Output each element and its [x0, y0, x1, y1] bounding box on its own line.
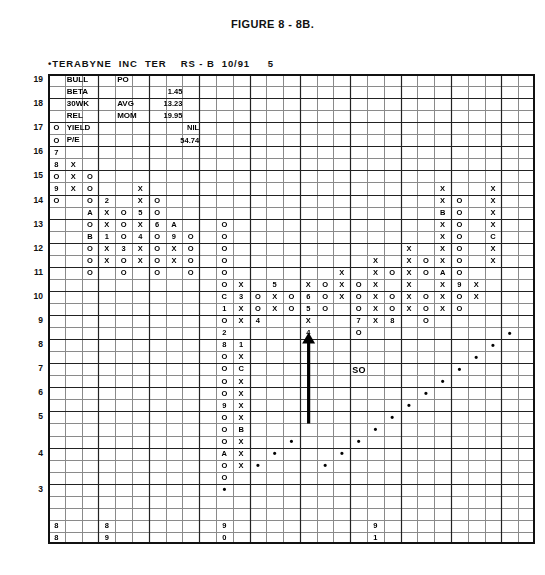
breakout-arrow [48, 74, 535, 544]
y-axis-tick: 18 [34, 99, 43, 108]
y-axis-tick: 4 [38, 449, 43, 458]
y-axis-tick: 19 [34, 75, 43, 84]
chart-header: •TERABYNE INC TER RS - B 10/91 5 [48, 58, 538, 69]
point-and-figure-grid[interactable]: BULLPOBETA1.4530WKAVG13.23RELMOM19.95YIE… [48, 74, 535, 544]
y-axis-tick: 6 [38, 388, 43, 397]
y-axis-tick: 7 [38, 364, 43, 373]
y-axis-tick: 15 [34, 171, 43, 180]
y-axis-tick: 3 [38, 485, 43, 494]
y-axis-tick: 12 [34, 244, 43, 253]
y-axis-tick: 9 [38, 316, 43, 325]
y-axis-tick: 5 [38, 412, 43, 421]
y-axis-tick: 10 [34, 292, 43, 301]
y-axis-tick: 11 [34, 268, 43, 277]
support-label: SO [352, 365, 366, 375]
y-axis-tick: 16 [34, 147, 43, 156]
figure-title: FIGURE 8 - 8B. [0, 18, 545, 30]
y-axis-tick: 14 [34, 196, 43, 205]
y-axis-tick: 13 [34, 220, 43, 229]
y-axis-tick: 17 [34, 123, 43, 132]
y-axis-tick: 8 [38, 340, 43, 349]
y-axis: 191817161514131211109876543 [0, 74, 46, 544]
